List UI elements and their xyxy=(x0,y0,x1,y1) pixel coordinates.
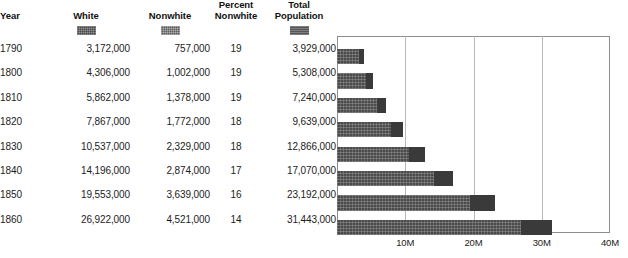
table-row: 184014,196,0002,874,0001717,070,000 xyxy=(0,159,336,183)
bar-row-1800 xyxy=(337,69,610,93)
column-header-percent-nonwhite: Percent Nonwhite xyxy=(210,0,262,22)
stacked-bar-1840[interactable] xyxy=(337,171,454,186)
cell-percent-nonwhite: 19 xyxy=(210,86,262,110)
cell-year: 1840 xyxy=(0,159,42,183)
bar-segment-white-1810 xyxy=(337,98,377,113)
bar-segment-nonwhite-1790 xyxy=(359,49,364,64)
column-header-year: Year xyxy=(0,0,42,22)
cell-percent-nonwhite: 19 xyxy=(210,61,262,85)
bar-segment-white-1840 xyxy=(337,171,434,186)
cell-percent-nonwhite: 16 xyxy=(210,183,262,207)
bar-row-1830 xyxy=(337,142,610,166)
x-tick-label-10M: 10M xyxy=(396,237,414,248)
legend-swatch-row xyxy=(0,22,336,37)
column-header-white-label: White xyxy=(73,10,99,21)
stacked-bar-1830[interactable] xyxy=(337,147,425,162)
column-header-total-population: Total Population xyxy=(262,0,336,22)
table-row: 186026,922,0004,521,0001431,443,000 xyxy=(0,208,336,232)
cell-percent-nonwhite: 14 xyxy=(210,208,262,232)
bar-segment-white-1860 xyxy=(337,220,521,235)
bar-row-1840 xyxy=(337,166,610,190)
bar-row-1850 xyxy=(337,191,610,215)
nonwhite-series-swatch-icon xyxy=(161,26,180,35)
cell-total: 12,866,000 xyxy=(262,135,336,159)
legend-swatch-cell-nonwhite xyxy=(130,22,210,37)
total-series-swatch-icon xyxy=(290,26,309,35)
stacked-bar-1820[interactable] xyxy=(337,122,403,137)
cell-nonwhite: 757,000 xyxy=(130,37,210,61)
cell-nonwhite: 3,639,000 xyxy=(130,183,210,207)
x-axis-tick-labels: 10M20M30M40M xyxy=(337,234,628,254)
legend-swatch-cell-year xyxy=(0,22,42,37)
bar-segment-white-1850 xyxy=(337,195,470,210)
cell-total: 9,639,000 xyxy=(262,110,336,134)
white-series-swatch-icon xyxy=(77,26,96,35)
cell-nonwhite: 1,002,000 xyxy=(130,61,210,85)
population-table: Year White Nonwhite Percent Nonwhite Tot… xyxy=(0,0,336,232)
bar-segment-white-1830 xyxy=(337,147,409,162)
cell-year: 1850 xyxy=(0,183,42,207)
table-row: 183010,537,0002,329,0001812,866,000 xyxy=(0,135,336,159)
cell-year: 1810 xyxy=(0,86,42,110)
cell-year: 1830 xyxy=(0,135,42,159)
cell-percent-nonwhite: 19 xyxy=(210,37,262,61)
table-row: 185019,553,0003,639,0001623,192,000 xyxy=(0,183,336,207)
bar-row-1790 xyxy=(337,44,610,68)
cell-white: 10,537,000 xyxy=(42,135,130,159)
cell-white: 5,862,000 xyxy=(42,86,130,110)
cell-white: 26,922,000 xyxy=(42,208,130,232)
table-header-row: Year White Nonwhite Percent Nonwhite Tot… xyxy=(0,0,336,22)
table-row: 18105,862,0001,378,000197,240,000 xyxy=(0,86,336,110)
cell-nonwhite: 4,521,000 xyxy=(130,208,210,232)
cell-year: 1820 xyxy=(0,110,42,134)
legend-swatch-cell-white xyxy=(42,22,130,37)
cell-total: 5,308,000 xyxy=(262,61,336,85)
cell-year: 1860 xyxy=(0,208,42,232)
bar-segment-nonwhite-1850 xyxy=(470,195,495,210)
cell-percent-nonwhite: 17 xyxy=(210,159,262,183)
bar-segment-white-1820 xyxy=(337,122,391,137)
population-table-and-chart: Year White Nonwhite Percent Nonwhite Tot… xyxy=(0,0,628,258)
table-body: 17903,172,000757,000193,929,00018004,306… xyxy=(0,37,336,232)
legend-swatch-cell-percent xyxy=(210,22,262,37)
cell-percent-nonwhite: 18 xyxy=(210,135,262,159)
legend-swatch-cell-total xyxy=(262,22,336,37)
column-header-nonwhite-label: Nonwhite xyxy=(149,10,191,21)
stacked-bar-1860[interactable] xyxy=(337,220,552,235)
stacked-bar-1810[interactable] xyxy=(337,98,386,113)
column-header-nonwhite: Nonwhite xyxy=(130,0,210,22)
bar-row-1810 xyxy=(337,93,610,117)
population-data-table-panel: Year White Nonwhite Percent Nonwhite Tot… xyxy=(0,0,336,258)
column-header-percent-nonwhite-line1: Percent xyxy=(219,0,254,10)
x-tick-label-40M: 40M xyxy=(601,237,619,248)
column-header-year-label: Year xyxy=(0,10,20,21)
bar-row-1820 xyxy=(337,118,610,142)
cell-percent-nonwhite: 18 xyxy=(210,110,262,134)
column-header-total-population-line2: Population xyxy=(275,10,324,21)
cell-total: 31,443,000 xyxy=(262,208,336,232)
stacked-bar-1790[interactable] xyxy=(337,49,364,64)
cell-nonwhite: 2,329,000 xyxy=(130,135,210,159)
stacked-bar-1850[interactable] xyxy=(337,195,495,210)
bar-segment-nonwhite-1820 xyxy=(391,122,403,137)
table-row: 18004,306,0001,002,000195,308,000 xyxy=(0,61,336,85)
column-header-percent-nonwhite-line2: Nonwhite xyxy=(215,10,257,21)
bar-segment-white-1800 xyxy=(337,73,366,88)
table-header: Year White Nonwhite Percent Nonwhite Tot… xyxy=(0,0,336,37)
stacked-bar-1800[interactable] xyxy=(337,73,373,88)
bar-series-container xyxy=(337,36,610,233)
cell-total: 7,240,000 xyxy=(262,86,336,110)
cell-year: 1800 xyxy=(0,61,42,85)
x-tick-label-20M: 20M xyxy=(464,237,482,248)
cell-total: 3,929,000 xyxy=(262,37,336,61)
cell-year: 1790 xyxy=(0,37,42,61)
cell-white: 7,867,000 xyxy=(42,110,130,134)
population-bar-chart xyxy=(337,36,610,233)
column-header-total-population-line1: Total xyxy=(288,0,310,10)
cell-white: 3,172,000 xyxy=(42,37,130,61)
table-row: 18207,867,0001,772,000189,639,000 xyxy=(0,110,336,134)
cell-nonwhite: 2,874,000 xyxy=(130,159,210,183)
cell-total: 17,070,000 xyxy=(262,159,336,183)
cell-white: 19,553,000 xyxy=(42,183,130,207)
bar-segment-nonwhite-1860 xyxy=(521,220,552,235)
